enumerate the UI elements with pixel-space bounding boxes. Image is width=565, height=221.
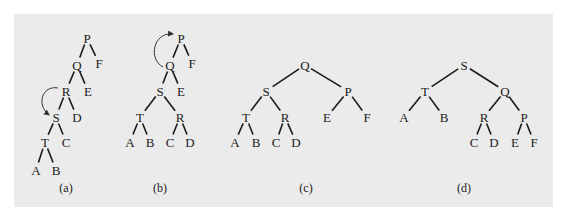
tree-node-t: T: [41, 135, 49, 150]
tree-edge-P-Q: [173, 44, 178, 57]
tree-node-q: Q: [165, 58, 175, 73]
tree-edge-T-A: [38, 149, 42, 163]
tree-node-f: F: [363, 110, 370, 125]
tree-edge-Q-P: [311, 69, 341, 87]
tree-node-d: D: [185, 135, 194, 150]
tree-node-p: P: [177, 31, 184, 46]
panel-caption-c: (c): [299, 181, 312, 195]
tree-edge-P-F: [184, 44, 189, 55]
tree-node-b: B: [52, 163, 61, 178]
tree-edge-P-F: [90, 44, 96, 55]
tree-node-e: E: [84, 84, 92, 99]
tree-node-a: A: [399, 110, 409, 125]
tree-edge-P-Q: [80, 45, 85, 58]
panel-caption-d: (d): [457, 181, 471, 195]
tree-edge-S-T: [145, 97, 156, 111]
tree-node-b: B: [146, 135, 155, 150]
tree-edge-R-C: [477, 123, 481, 134]
tree-node-q: Q: [300, 58, 310, 73]
tree-node-f: F: [188, 56, 195, 71]
tree-edge-S-T: [432, 69, 459, 87]
tree-panel-a: PQFRESDTCAB(a): [31, 31, 102, 195]
tree-panel-d: STQABRPCDEF(d): [399, 58, 537, 195]
tree-edge-T-B: [249, 123, 253, 134]
tree-node-p: P: [520, 110, 527, 125]
tree-node-s: S: [460, 58, 467, 73]
tree-node-a: A: [31, 163, 41, 178]
tree-node-q: Q: [72, 58, 82, 73]
tree-edge-T-A: [133, 123, 137, 134]
tree-edge-P-E: [332, 96, 344, 110]
tree-edge-S-T: [48, 123, 53, 134]
tree-edge-Q-S: [273, 69, 300, 87]
tree-edge-P-E: [518, 124, 522, 135]
tree-node-e: E: [323, 110, 331, 125]
tree-node-d: D: [489, 135, 498, 150]
tree-node-r: R: [62, 84, 71, 99]
tree-node-d: D: [291, 135, 300, 150]
tree-edge-S-R: [164, 97, 175, 111]
tree-node-c: C: [470, 135, 479, 150]
tree-node-r: R: [176, 110, 185, 125]
tree-edge-R-D: [288, 123, 293, 134]
tree-node-c: C: [166, 135, 175, 150]
tree-edge-Q-E: [173, 71, 178, 83]
tree-node-f: F: [95, 56, 102, 71]
tree-edge-T-A: [409, 96, 421, 110]
tree-node-t: T: [421, 84, 429, 99]
tree-edge-S-R: [270, 97, 280, 111]
tree-edge-Q-P: [509, 97, 519, 111]
tree-node-a: A: [230, 135, 240, 150]
tree-node-r: R: [480, 110, 489, 125]
tree-node-t: T: [136, 110, 144, 125]
tree-edge-S-C: [59, 123, 63, 134]
tree-node-s: S: [262, 84, 269, 99]
tree-edge-S-T: [251, 97, 262, 111]
tree-edge-R-S: [59, 98, 64, 110]
tree-node-r: R: [281, 110, 290, 125]
tree-panel-b: PQFSETRABCD(b): [125, 31, 195, 195]
tree-node-b: B: [252, 135, 261, 150]
tree-edge-P-F: [352, 97, 362, 111]
tree-panel-c: QSPTREFABCD(c): [230, 58, 370, 195]
tree-node-e: E: [177, 84, 185, 99]
tree-edge-R-D: [69, 97, 74, 109]
tree-node-e: E: [511, 135, 519, 150]
tree-edge-T-B: [143, 123, 147, 134]
tree-node-s: S: [156, 84, 163, 99]
tree-rotation-figure: PQFRESDTCAB(a) PQFSETRABCD(b) QSPTREFABC…: [0, 0, 565, 221]
tree-node-b: B: [440, 110, 449, 125]
tree-edge-Q-S: [163, 72, 168, 84]
tree-node-f: F: [530, 135, 537, 150]
tree-edge-Q-E: [80, 71, 85, 83]
tree-node-p: P: [83, 31, 90, 46]
tree-edge-R-D: [487, 123, 491, 134]
tree-edge-T-B: [48, 149, 54, 163]
tree-node-s: S: [52, 110, 59, 125]
tree-node-c: C: [272, 135, 281, 150]
tree-edge-T-A: [238, 123, 243, 134]
tree-node-p: P: [344, 84, 351, 99]
tree-node-q: Q: [500, 84, 510, 99]
tree-node-d: D: [72, 110, 81, 125]
tree-edge-Q-R: [69, 71, 74, 83]
tree-node-c: C: [62, 135, 71, 150]
tree-edge-Q-R: [489, 96, 501, 110]
tree-edge-S-Q: [470, 69, 498, 87]
tree-edge-R-C: [279, 124, 283, 135]
tree-edge-R-D: [183, 123, 187, 134]
tree-edge-P-F: [527, 123, 531, 134]
panel-caption-a: (a): [59, 181, 72, 195]
tree-node-t: T: [242, 110, 250, 125]
panel-caption-b: (b): [153, 181, 167, 195]
tree-edge-R-C: [173, 123, 177, 134]
tree-node-a: A: [125, 135, 135, 150]
tree-edge-T-B: [429, 97, 439, 111]
